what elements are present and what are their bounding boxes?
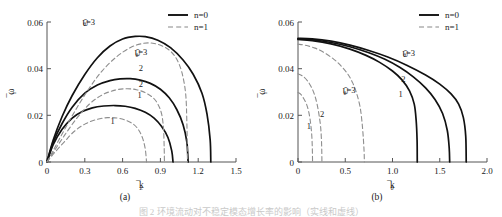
legend-b: n=0 n=1 [419, 10, 460, 32]
x-tick-label: 0.9 [155, 166, 167, 176]
curve-solid [47, 79, 188, 162]
y-tick-label: 0.04 [27, 64, 43, 74]
x-tick-label: 1.5 [230, 166, 242, 176]
y-axis-title-b: ω̅i [257, 89, 268, 99]
x-tick-label: 0 [296, 166, 301, 176]
panel-caption-b: (b) [357, 192, 397, 202]
y-axis-title-a: ω̅i [6, 89, 17, 99]
curve-label: 2 [139, 79, 143, 89]
x-tick-label: 1.5 [434, 166, 446, 176]
y-tick-label: 0 [290, 158, 295, 168]
y-tick-label: 0.04 [278, 64, 294, 74]
x-ticks-b [298, 158, 487, 162]
svg-text:k̅z: k̅z [135, 180, 144, 191]
y-ticks-a [47, 22, 51, 162]
curve-label: 1 [137, 90, 141, 100]
y-tick-label: 0.02 [27, 111, 43, 121]
y-tick-label: 0 [39, 158, 44, 168]
figure-caption: 图 2 环境流动对不稳定模态增长率的影响（实线和虚线） [0, 205, 502, 217]
curve-dashed [298, 44, 364, 162]
x-tick-label: 2.0 [481, 166, 493, 176]
curves-b [298, 38, 466, 162]
x-axis-title-b: k̅θ [386, 180, 395, 191]
x-tick-label: 0.5 [340, 166, 352, 176]
y-ticks-b [298, 22, 302, 162]
x-tick-label: 1.0 [387, 166, 399, 176]
legend-label: n=0 [194, 10, 209, 20]
svg-text:ω̅i: ω̅i [257, 89, 268, 99]
plot-b: 0 0.02 0.04 0.06 0 0.5 1.0 1.5 2.0 k̅θ ω… [251, 0, 502, 195]
curve-label: Ūθ=3 [134, 47, 147, 58]
curves-a [47, 36, 211, 162]
curve-solid [298, 38, 466, 162]
curve-label: 2 [139, 63, 143, 73]
x-ticks-a [47, 158, 236, 162]
x-axis-title-a: k̅z [135, 180, 144, 191]
x-tick-label: 1.2 [193, 166, 204, 176]
panel-b: 0 0.02 0.04 0.06 0 0.5 1.0 1.5 2.0 k̅θ ω… [251, 0, 502, 195]
curve-label: Ūθ=3 [343, 85, 356, 96]
y-tick-label: 0.06 [27, 18, 43, 28]
curve-dashed [298, 74, 322, 162]
curve-label: Ūθ=3 [402, 48, 415, 59]
panel-a: 0 0.02 0.04 0.06 0 0.3 0.6 0.9 1.2 1.5 k… [0, 0, 251, 195]
curve-label: Ūθ=3 [82, 17, 95, 28]
y-tick-label: 0.02 [278, 111, 294, 121]
plot-a: 0 0.02 0.04 0.06 0 0.3 0.6 0.9 1.2 1.5 k… [0, 0, 251, 195]
curve-label: 2 [401, 74, 405, 84]
svg-text:ω̅i: ω̅i [6, 89, 17, 99]
curve-label: 1 [398, 89, 402, 99]
legend-a: n=0 n=1 [168, 10, 209, 32]
curve-label: 1 [307, 121, 311, 131]
x-tick-label: 0.6 [117, 166, 129, 176]
legend-label: n=1 [445, 22, 459, 32]
curve-annotations-b: Ūθ=321Ūθ=321 [307, 48, 415, 132]
panel-caption-a: (a) [105, 192, 145, 202]
svg-text:k̅θ: k̅θ [386, 180, 395, 191]
legend-label: n=1 [194, 22, 208, 32]
x-tick-label: 0.3 [79, 166, 91, 176]
curve-solid [298, 39, 450, 162]
figure-container: 0 0.02 0.04 0.06 0 0.3 0.6 0.9 1.2 1.5 k… [0, 0, 502, 217]
x-tick-label: 0 [45, 166, 50, 176]
curve-label: 1 [110, 116, 114, 126]
y-tick-label: 0.06 [278, 18, 294, 28]
legend-label: n=0 [445, 10, 460, 20]
curve-label: 2 [320, 109, 324, 119]
